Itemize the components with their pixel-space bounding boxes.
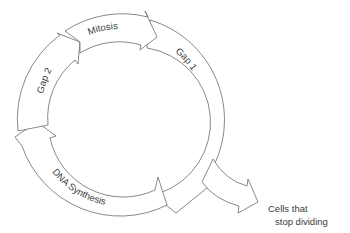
gap2-band bbox=[17, 33, 80, 131]
cell-cycle-diagram: Mitosis Gap 1 DNA Synthesis Gap 2 Cells … bbox=[0, 0, 350, 233]
exit-branch-arrow bbox=[202, 159, 258, 213]
exit-label-line2: stop dividing bbox=[275, 216, 328, 227]
exit-label-line1: Cells that bbox=[268, 203, 308, 214]
